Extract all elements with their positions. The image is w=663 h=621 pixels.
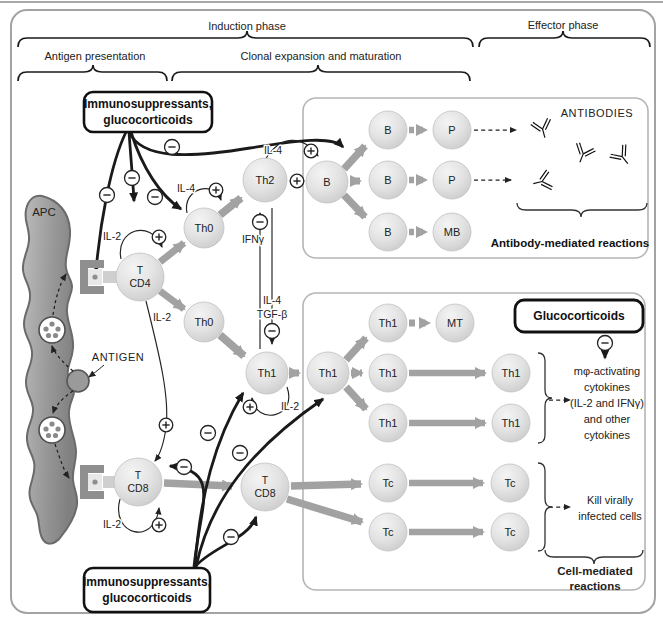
cell-th0a: Th0 xyxy=(184,208,224,248)
cell-label: T xyxy=(262,474,269,486)
antigen-pointer-arrow xyxy=(89,365,104,377)
antigen-label: ANTIGEN xyxy=(92,351,144,363)
cell-p2: P xyxy=(433,161,471,199)
cell-th1r3b: Th1 xyxy=(492,404,530,442)
cell-label: Th1 xyxy=(379,417,398,429)
cell-label: Th0 xyxy=(195,222,214,234)
il2-th1-loop-label: IL-2 xyxy=(281,400,299,412)
cell-b1: B xyxy=(369,111,407,149)
cell-label: CD4 xyxy=(129,277,150,289)
immunosuppressants-bottom-box: Immunosuppressants, glucocorticoids xyxy=(83,568,211,612)
cell-label: Th1 xyxy=(502,367,521,379)
cell-b3: B xyxy=(369,213,407,251)
cell-label: B xyxy=(384,124,391,136)
inhibition-badge xyxy=(100,188,115,203)
inhibition-badge xyxy=(598,336,613,351)
il4-th2-b-label: IL-4 xyxy=(264,144,282,156)
stimulation-badge xyxy=(159,418,173,432)
cell-label: Th0 xyxy=(195,316,214,328)
cell-label: T xyxy=(137,264,144,276)
ifng-label: IFNγ xyxy=(242,233,265,245)
stimulation-badge xyxy=(209,183,223,197)
inhibition-badge xyxy=(224,530,239,545)
inhibition-badge xyxy=(177,460,192,475)
svg-text:glucocorticoids: glucocorticoids xyxy=(102,591,192,605)
inhibition-badge xyxy=(148,190,163,205)
cell-label: Tc xyxy=(383,526,395,538)
inhibition-badge xyxy=(265,324,280,339)
inhibition-badge xyxy=(165,140,180,155)
cell-label: MT xyxy=(447,317,463,329)
svg-text:cytokines: cytokines xyxy=(584,429,630,441)
cell-label: Th1 xyxy=(379,317,398,329)
stimulation-badge xyxy=(243,400,257,414)
cell-mediated-panel xyxy=(303,293,645,590)
cell-tc2b: Tc xyxy=(491,513,529,551)
cell-bhub: B xyxy=(306,161,348,203)
stimulation-badge xyxy=(290,174,304,188)
antibody-mediated-caption: Antibody-mediated reactions xyxy=(491,237,649,249)
svg-text:Cell-mediated: Cell-mediated xyxy=(557,565,632,577)
cell-label: Th1 xyxy=(379,367,398,379)
induction-phase-label: Induction phase xyxy=(208,20,286,32)
apc-label: APC xyxy=(32,206,56,218)
cell-cd8b: TCD8 xyxy=(241,463,289,511)
cell-th0b: Th0 xyxy=(184,302,224,342)
cell-mt: MT xyxy=(436,304,474,342)
cell-th1r2: Th1 xyxy=(369,354,407,392)
il4-vertical-label: IL-4 xyxy=(263,294,281,306)
stimulation-badge xyxy=(152,518,166,532)
svg-text:reactions: reactions xyxy=(569,580,620,592)
cell-th1r1: Th1 xyxy=(369,304,407,342)
cell-th2: Th2 xyxy=(243,158,287,202)
inhibition-badge xyxy=(125,171,140,186)
cell-th1a: Th1 xyxy=(246,352,288,394)
inhibition-badge xyxy=(201,426,216,441)
tgfb-label: TGF-β xyxy=(257,308,288,320)
effector-phase-label: Effector phase xyxy=(528,19,599,31)
figure-immune-pathway-diagram: Induction phase Effector phase Antigen p… xyxy=(0,0,663,621)
cell-label: P xyxy=(448,124,455,136)
cell-label: Th1 xyxy=(502,417,521,429)
cell-label: B xyxy=(384,226,391,238)
antigen-presentation-label: Antigen presentation xyxy=(45,50,146,62)
cell-label: T xyxy=(135,469,142,481)
clonal-expansion-label: Clonal expansion and maturation xyxy=(241,50,402,62)
stimulation-badge xyxy=(304,144,318,158)
inhibition-badge xyxy=(253,215,268,230)
diagram-canvas: Induction phase Effector phase Antigen p… xyxy=(0,0,663,621)
inhibition-badge xyxy=(233,446,248,461)
cell-label: Tc xyxy=(505,526,517,538)
cell-label: Th1 xyxy=(319,367,338,379)
cell-label: Th2 xyxy=(256,174,275,186)
svg-text:Kill virally: Kill virally xyxy=(587,494,633,506)
cell-label: MB xyxy=(444,226,461,238)
il2-cd4-cd8-label: IL-2 xyxy=(153,311,171,323)
svg-text:glucocorticoids: glucocorticoids xyxy=(103,113,193,127)
svg-text:infected cells: infected cells xyxy=(578,510,642,522)
cell-th1hub: Th1 xyxy=(307,352,349,394)
svg-text:Immunosuppressants,: Immunosuppressants, xyxy=(84,97,212,111)
svg-text:and other: and other xyxy=(584,413,631,425)
cell-label: B xyxy=(323,176,330,188)
il2-cd8-loop-label: IL-2 xyxy=(103,518,121,530)
cell-tc1b: Tc xyxy=(491,464,529,502)
svg-text:mφ-activating: mφ-activating xyxy=(574,365,640,377)
cell-tc2: Tc xyxy=(369,513,407,551)
cell-label: CD8 xyxy=(254,487,275,499)
cell-th1r3: Th1 xyxy=(369,404,407,442)
cell-th1r2b: Th1 xyxy=(492,354,530,392)
svg-text:(IL-2 and IFNγ): (IL-2 and IFNγ) xyxy=(570,397,644,409)
cell-label: P xyxy=(448,174,455,186)
cell-cd8a: TCD8 xyxy=(114,458,162,506)
glucocorticoids-box: Glucocorticoids xyxy=(515,300,643,332)
il4-th0-loop-label: IL-4 xyxy=(177,182,195,194)
cell-label: CD8 xyxy=(127,482,148,494)
immunosuppressants-top-box: Immunosuppressants, glucocorticoids xyxy=(84,92,212,132)
cell-tc1: Tc xyxy=(369,464,407,502)
cell-b2: B xyxy=(369,161,407,199)
antibodies-title: ANTIBODIES xyxy=(561,107,634,119)
cell-label: Tc xyxy=(505,477,517,489)
cell-label: Tc xyxy=(383,477,395,489)
cell-p1: P xyxy=(433,111,471,149)
